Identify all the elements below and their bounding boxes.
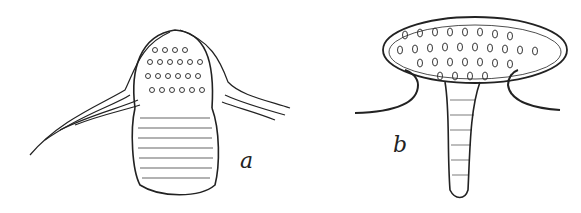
engraving-drawing (0, 0, 581, 213)
figure-a-label: a (240, 148, 253, 173)
figure-a-fibers (30, 30, 290, 155)
figure-b-label: b (393, 132, 407, 157)
illustration-canvas: a b (0, 0, 581, 213)
